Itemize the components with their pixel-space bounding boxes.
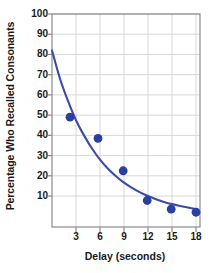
x-axis-tick-label: 12 bbox=[136, 232, 160, 242]
data-point-marker bbox=[192, 208, 201, 217]
data-point-markers bbox=[66, 113, 201, 217]
x-axis-tick-label: 18 bbox=[184, 232, 208, 242]
grid-lines bbox=[52, 14, 200, 227]
x-axis-tick-label: 15 bbox=[160, 232, 184, 242]
x-axis-title: Delay (seconds) bbox=[40, 250, 210, 262]
x-axis-tick-labels: 369121518 bbox=[0, 232, 210, 248]
axis-tick-marks bbox=[48, 14, 196, 232]
data-point-marker bbox=[143, 196, 152, 205]
x-axis-tick-label: 6 bbox=[88, 232, 112, 242]
data-point-marker bbox=[119, 166, 128, 175]
data-point-marker bbox=[167, 205, 176, 214]
chart-container: Percentage Who Recalled Consonants 10203… bbox=[0, 0, 210, 273]
x-axis-tick-label: 3 bbox=[64, 232, 88, 242]
axis-frame bbox=[52, 14, 200, 227]
data-point-marker bbox=[94, 134, 103, 143]
data-point-marker bbox=[66, 113, 75, 122]
x-axis-tick-label: 9 bbox=[112, 232, 136, 242]
